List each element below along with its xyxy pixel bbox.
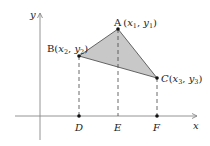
point-e-label: E xyxy=(113,122,122,133)
point-f xyxy=(155,114,159,118)
point-a-label: A(x1, y1) xyxy=(113,17,157,30)
triangle-area-diagram: y x A(x1, y1) B(x2, y2) C(x3, y3) D E F xyxy=(0,0,210,146)
point-c-label: C(x3, y3) xyxy=(161,73,203,86)
y-axis-label: y xyxy=(29,9,36,20)
point-b-label: B(x2, y2) xyxy=(47,43,88,56)
point-d-label: D xyxy=(74,122,83,133)
point-f-label: F xyxy=(152,122,161,133)
point-d xyxy=(77,114,81,118)
x-axis-label: x xyxy=(193,120,199,131)
point-c xyxy=(155,76,159,80)
